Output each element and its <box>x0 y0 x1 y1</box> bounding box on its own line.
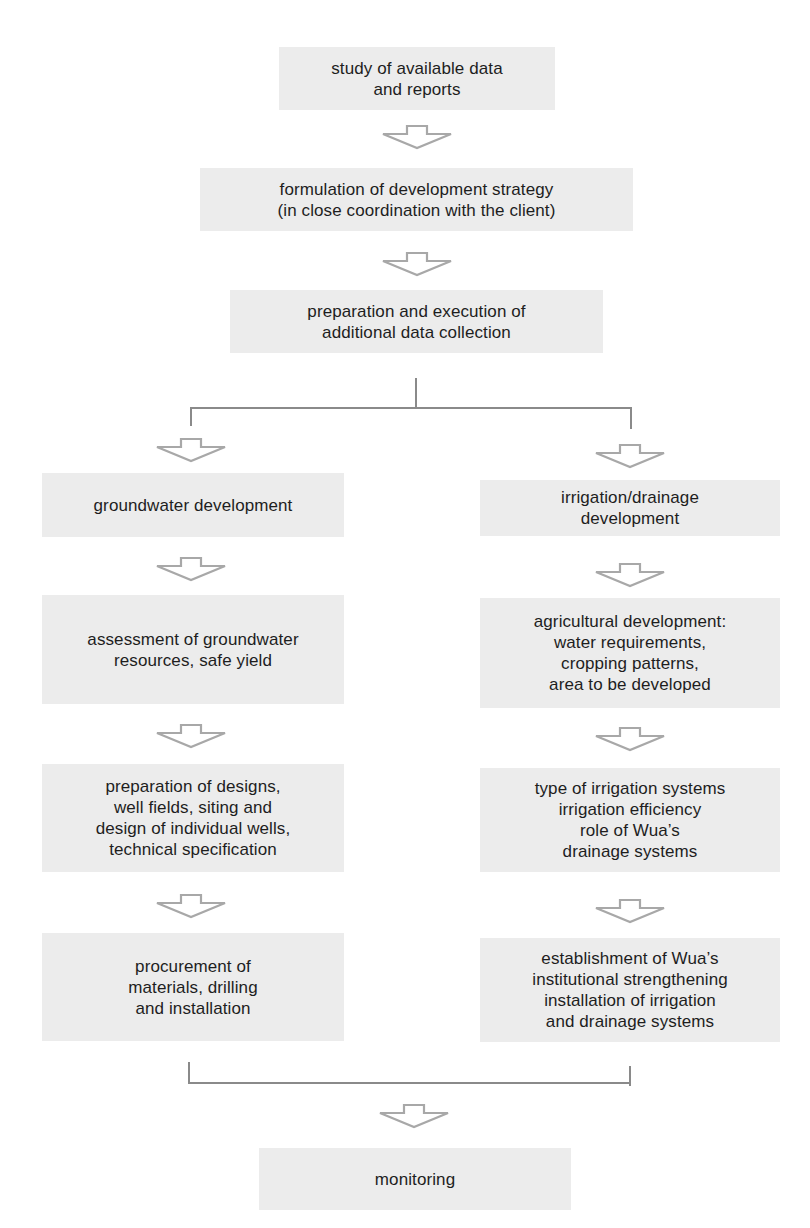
down-arrow-icon <box>381 251 453 277</box>
step-data-collection-label: preparation and execution of additional … <box>307 301 525 343</box>
split-connector-stem <box>415 378 417 409</box>
down-arrow-icon <box>594 562 666 588</box>
step-study-box: study of available data and reports <box>279 47 555 110</box>
step-assessment-label: assessment of groundwater resources, saf… <box>87 629 298 671</box>
merge-connector-bar <box>188 1082 631 1084</box>
step-irrigation-box: irrigation/drainage development <box>480 480 780 536</box>
down-arrow-icon <box>155 723 227 749</box>
merge-connector-left-rise <box>188 1062 190 1084</box>
step-designs-label: preparation of designs, well fields, sit… <box>96 776 291 860</box>
step-agricultural-label: agricultural development: water requirem… <box>534 611 726 695</box>
step-study-label: study of available data and reports <box>331 58 502 100</box>
step-monitoring-box: monitoring <box>259 1148 571 1210</box>
split-connector-left-drop <box>190 407 192 426</box>
step-groundwater-box: groundwater development <box>42 473 344 537</box>
step-data-collection-box: preparation and execution of additional … <box>230 290 603 353</box>
down-arrow-icon <box>594 726 666 752</box>
down-arrow-icon <box>381 124 453 150</box>
step-irrigation-systems-label: type of irrigation systems irrigation ef… <box>535 778 726 862</box>
step-establishment-label: establishment of Wua’s institutional str… <box>532 948 728 1032</box>
step-groundwater-label: groundwater development <box>94 495 293 516</box>
down-arrow-icon <box>378 1103 450 1129</box>
step-strategy-box: formulation of development strategy (in … <box>200 168 633 231</box>
step-designs-box: preparation of designs, well fields, sit… <box>42 764 344 872</box>
split-connector-bar <box>190 407 632 409</box>
split-connector-right-drop <box>630 407 632 429</box>
step-procurement-label: procurement of materials, drilling and i… <box>128 956 257 1019</box>
step-assessment-box: assessment of groundwater resources, saf… <box>42 595 344 704</box>
down-arrow-icon <box>594 898 666 924</box>
step-irrigation-label: irrigation/drainage development <box>561 487 699 529</box>
step-strategy-label: formulation of development strategy (in … <box>278 179 556 221</box>
down-arrow-icon <box>155 893 227 919</box>
down-arrow-icon <box>155 437 227 463</box>
down-arrow-icon <box>594 443 666 469</box>
step-establishment-box: establishment of Wua’s institutional str… <box>480 938 780 1042</box>
step-procurement-box: procurement of materials, drilling and i… <box>42 933 344 1041</box>
down-arrow-icon <box>155 556 227 582</box>
step-monitoring-label: monitoring <box>375 1169 455 1190</box>
step-irrigation-systems-box: type of irrigation systems irrigation ef… <box>480 768 780 872</box>
step-agricultural-box: agricultural development: water requirem… <box>480 598 780 708</box>
